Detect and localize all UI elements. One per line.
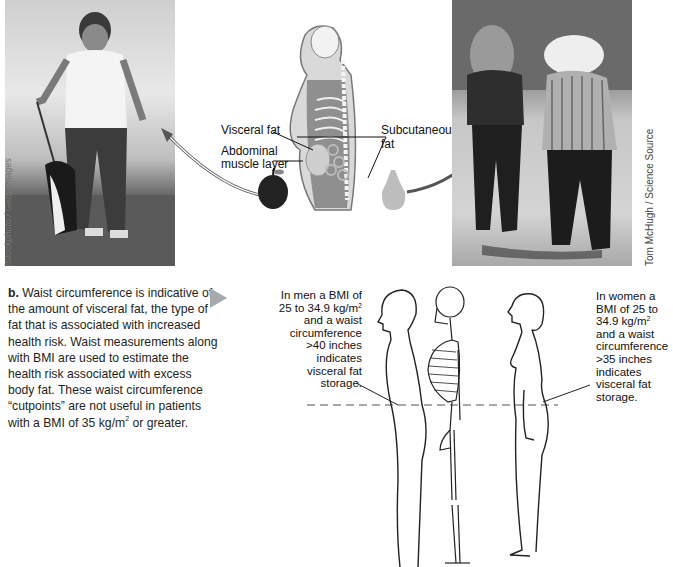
skeleton-outline bbox=[428, 287, 470, 563]
photo-credit-left: iStockphoto / Getty Images bbox=[3, 158, 13, 266]
photo-woman-walking-dog bbox=[5, 0, 175, 266]
visceral-fat-illustration bbox=[155, 0, 475, 215]
label-visceral-fat: Visceral fat bbox=[221, 124, 280, 137]
triangle-pointer-icon bbox=[210, 288, 227, 308]
two-women-walking-image bbox=[452, 0, 632, 266]
pear-icon bbox=[382, 170, 405, 210]
label-subcutaneous-fat: fat bbox=[381, 138, 394, 151]
woman-outline bbox=[508, 294, 548, 556]
man-outline bbox=[378, 290, 426, 567]
label-subcutaneous: Subcutaneous bbox=[381, 124, 458, 137]
figure-b-caption: b. Waist circumference is indicative of … bbox=[8, 285, 218, 431]
woman-walking-dog-image bbox=[5, 0, 175, 266]
label-muscle-layer: muscle layer bbox=[221, 158, 288, 171]
body-outlines-illustration bbox=[290, 280, 610, 567]
photo-two-women-walking bbox=[452, 0, 632, 266]
apple-icon bbox=[258, 168, 288, 209]
photo-credit-right: Tom McHugh / Science Source bbox=[644, 129, 655, 266]
caption-text: Waist circumference is indicative of the… bbox=[8, 286, 218, 430]
caption-label: b. bbox=[8, 286, 19, 300]
